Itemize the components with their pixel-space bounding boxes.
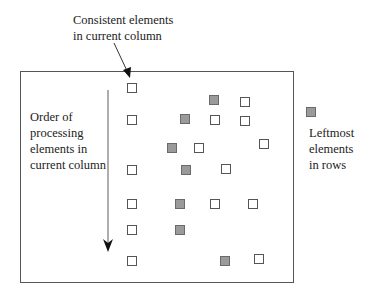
consistent-elements-line2: in current column bbox=[73, 28, 173, 44]
processing-order-line3: elements in bbox=[30, 141, 106, 157]
leftmost-element-square bbox=[175, 199, 185, 209]
leftmost-element-square bbox=[175, 225, 185, 235]
element-square bbox=[210, 199, 220, 209]
legend-line1: Leftmost bbox=[309, 125, 354, 141]
element-square bbox=[210, 115, 220, 125]
consistent-elements-line1: Consistent elements bbox=[73, 12, 173, 28]
element-square bbox=[127, 199, 137, 209]
legend-gray-square bbox=[306, 107, 316, 117]
leftmost-element-square bbox=[181, 165, 191, 175]
element-square bbox=[248, 199, 258, 209]
leftmost-element-square bbox=[209, 95, 219, 105]
element-square bbox=[127, 83, 137, 93]
element-square bbox=[240, 97, 250, 107]
legend-label: Leftmost elements in rows bbox=[309, 125, 354, 173]
processing-order-label: Order of processing elements in current … bbox=[30, 109, 106, 173]
consistent-elements-label: Consistent elements in current column bbox=[73, 12, 173, 44]
element-square bbox=[221, 164, 231, 174]
leftmost-element-square bbox=[220, 256, 230, 266]
leftmost-element-square bbox=[167, 143, 177, 153]
processing-order-line2: processing bbox=[30, 125, 106, 141]
element-square bbox=[127, 225, 137, 235]
element-square bbox=[127, 165, 137, 175]
element-square bbox=[254, 254, 264, 264]
element-square bbox=[127, 256, 137, 266]
legend-line3: in rows bbox=[309, 157, 354, 173]
processing-order-line4: current column bbox=[30, 157, 106, 173]
element-square bbox=[240, 116, 250, 126]
processing-order-line1: Order of bbox=[30, 109, 106, 125]
element-square bbox=[127, 115, 137, 125]
element-square bbox=[259, 139, 269, 149]
element-square bbox=[194, 143, 204, 153]
leftmost-element-square bbox=[180, 114, 190, 124]
matrix-frame bbox=[20, 71, 294, 283]
legend-line2: elements bbox=[309, 141, 354, 157]
